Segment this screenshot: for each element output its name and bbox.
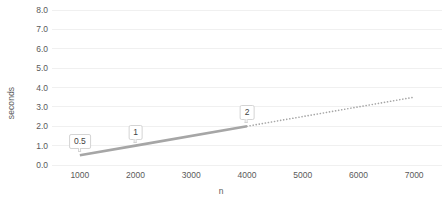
x-axis-tick-label: 3000 [182,170,201,180]
x-axis-title-label: n [219,186,224,196]
line-chart: seconds 0.01.02.03.04.05.06.07.08.0 0.51… [0,0,448,205]
x-axis-tick-label: 4000 [238,170,257,180]
x-axis-tick-label: 7000 [405,170,424,180]
x-axis-tick-label: 6000 [349,170,368,180]
x-axis-tick-labels: 1000200030004000500060007000 [0,0,448,205]
x-axis-tick-label: 1000 [70,170,89,180]
x-axis-tick-label: 2000 [126,170,145,180]
x-axis-title: n [0,186,448,196]
x-axis-tick-label: 5000 [293,170,312,180]
